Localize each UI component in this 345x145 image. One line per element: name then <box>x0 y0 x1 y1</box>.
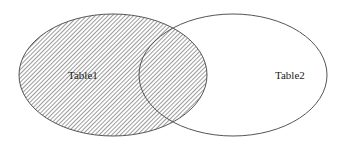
venn-diagram: Table1 Table2 <box>0 0 345 145</box>
table2-label: Table2 <box>275 69 305 81</box>
table1-label: Table1 <box>68 69 98 81</box>
table1-ellipse <box>19 14 207 136</box>
